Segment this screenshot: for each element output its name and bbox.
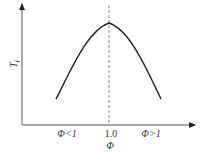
tick-label-lean: Φ<1 bbox=[57, 128, 76, 139]
x-axis-label: Φ bbox=[106, 140, 114, 151]
diagram-canvas: Tf Φ<1 1.0 Φ>1 Φ bbox=[0, 0, 204, 153]
temperature-curve bbox=[56, 23, 161, 99]
svg-text:Tf: Tf bbox=[8, 59, 21, 68]
tick-label-stoich: 1.0 bbox=[105, 128, 118, 139]
y-axis-label: Tf bbox=[8, 59, 21, 68]
tick-label-rich: Φ>1 bbox=[141, 128, 160, 139]
